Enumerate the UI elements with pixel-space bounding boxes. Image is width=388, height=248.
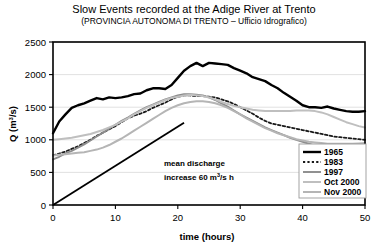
legend-label-oct-2000[interactable]: Oct 2000 [324, 177, 360, 187]
x-axis-title: time (hours) [180, 231, 235, 242]
legend-label-1997[interactable]: 1997 [324, 167, 343, 177]
y-tick-label: 500 [30, 167, 46, 178]
x-tick-label: 40 [297, 212, 308, 223]
annotation-line-2-prefix: increase 60 m [164, 173, 217, 182]
x-axis-tick-labels: 01020304050 [50, 212, 370, 223]
annotation-text: mean discharge increase 60 m3/s h [164, 159, 234, 182]
x-tick-label: 30 [235, 212, 246, 223]
annotation-line-1: mean discharge [164, 159, 225, 168]
annotation-line-2-suffix: /s h [220, 173, 234, 182]
x-tick-label: 0 [50, 212, 55, 223]
svg-text:Q (m3/s): Q (m3/s) [7, 106, 18, 142]
chart-plot-svg: 01020304050 05001000150020002500 time (h… [0, 0, 388, 248]
y-tick-label: 0 [41, 200, 46, 211]
legend-label-1965[interactable]: 1965 [324, 147, 343, 157]
x-tick-label: 10 [110, 212, 121, 223]
x-tick-label: 50 [360, 212, 371, 223]
chart-figure: Slow Events recorded at the Adige River … [0, 0, 388, 248]
annotation-line-2: increase 60 m3/s h [164, 172, 234, 182]
legend-label-nov-2000[interactable]: Nov 2000 [324, 187, 362, 197]
y-tick-label: 2000 [25, 69, 46, 80]
y-axis-title-main: Q (m [7, 120, 18, 142]
x-tick-label: 20 [173, 212, 184, 223]
legend-label-1983[interactable]: 1983 [324, 157, 343, 167]
y-axis-title: Q (m3/s) [7, 106, 18, 142]
y-axis-tick-labels: 05001000150020002500 [25, 37, 46, 211]
y-tick-label: 2500 [25, 37, 46, 48]
y-axis-title-tail: /s) [7, 106, 18, 117]
y-tick-label: 1500 [25, 102, 46, 113]
y-tick-label: 1000 [25, 134, 46, 145]
legend[interactable]: 196519831997Oct 2000Nov 2000 [299, 144, 366, 198]
